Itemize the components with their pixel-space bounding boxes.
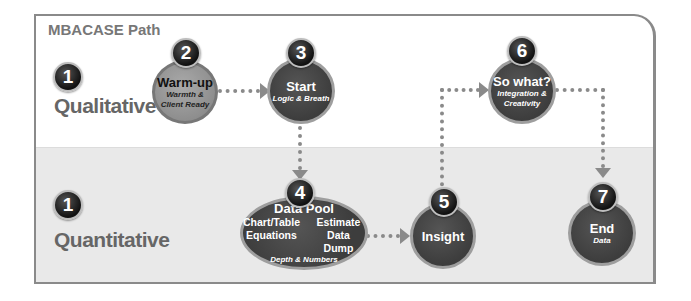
node-subtitle: Integration &: [497, 89, 546, 99]
node-so-what: So what? Integration & Creativity: [488, 58, 556, 124]
step-badge-5: 5: [429, 187, 459, 217]
node-subtitle: Client Ready: [161, 100, 209, 110]
connector-6-7-vertical: [601, 88, 605, 168]
data-pool-item: Data Dump: [312, 229, 365, 255]
row-label-quantitative: Quantitative: [54, 228, 169, 252]
node-title: End: [590, 221, 615, 236]
row-badge-quantitative: 1: [53, 190, 83, 220]
node-subtitle: Logic & Breath: [273, 94, 330, 104]
data-pool-item: Equations: [243, 229, 300, 255]
data-pool-item: Chart/Table: [243, 216, 300, 229]
node-subtitle: Data: [593, 236, 610, 246]
node-title: Warm-up: [157, 75, 213, 90]
step-badge-3: 3: [286, 38, 316, 68]
node-title: Insight: [422, 229, 465, 244]
arrow-down-icon: [595, 168, 611, 178]
step-badge-2: 2: [171, 38, 201, 68]
node-title: So what?: [493, 74, 551, 89]
connector-5-6-horizontal: [440, 88, 480, 92]
row-label-qualitative: Qualitative: [54, 94, 156, 118]
node-warm-up: Warm-up Warmth & Client Ready: [152, 60, 218, 124]
connector-6-7-horizontal: [555, 88, 605, 92]
step-badge-6: 6: [507, 36, 537, 66]
step-badge-7: 7: [588, 182, 618, 212]
data-pool-items: Chart/Table Estimate Equations Data Dump: [243, 216, 365, 255]
connector-3-4: [298, 118, 302, 170]
connector-2-3: [218, 89, 260, 93]
node-subtitle: Depth & Numbers: [270, 255, 338, 265]
arrow-right-icon: [400, 228, 410, 244]
node-subtitle: Warmth &: [166, 90, 204, 100]
step-badge-4: 4: [285, 178, 315, 208]
connector-4-5: [366, 234, 400, 238]
data-pool-item: Estimate: [312, 216, 365, 229]
node-subtitle: Creativity: [504, 99, 540, 109]
node-title: Start: [286, 79, 316, 94]
diagram-title: MBACASE Path: [48, 21, 161, 38]
row-badge-qualitative: 1: [53, 62, 83, 92]
